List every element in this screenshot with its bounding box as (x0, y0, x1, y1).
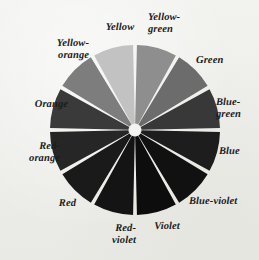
label-yellow: Yellow (94, 22, 146, 34)
label-orange: Orange (16, 99, 68, 111)
label-green: Green (196, 55, 246, 67)
label-violet: Violet (144, 221, 190, 233)
label-yellow-orange: Yellow- orange (33, 38, 89, 61)
label-blue: Blue (219, 146, 257, 158)
label-yellow-green: Yellow- green (148, 12, 208, 35)
wheel-center-hub (130, 125, 140, 135)
label-blue-green: Blue- green (216, 97, 258, 120)
label-red: Red (42, 198, 76, 210)
label-red-orange: Red- orange (12, 141, 60, 164)
label-blue-violet: Blue-violet (189, 196, 259, 208)
color-wheel-figure: Yellow-greenGreenBlue-greenBlueBlue-viol… (0, 0, 259, 260)
label-red-violet: Red- violet (92, 223, 136, 246)
